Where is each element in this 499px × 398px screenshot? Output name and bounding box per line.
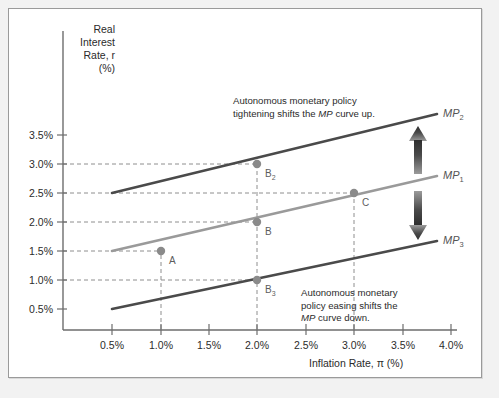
x-tick-label-0.5: 0.5% xyxy=(89,339,135,351)
y-tick-label-1.0: 1.0% xyxy=(9,274,53,286)
y-tick-label-2.5: 2.5% xyxy=(9,187,53,199)
figure-frame: Real Interest Rate, r (%) Inflation Rate… xyxy=(8,8,482,378)
point-label-c: C xyxy=(362,197,369,208)
arrow-down-shaft xyxy=(414,191,422,225)
point-label-b2-text: B xyxy=(265,168,272,179)
y-tick-label-3.0: 3.0% xyxy=(9,158,53,170)
marker-point-b2 xyxy=(253,160,261,168)
y-tick-label-2.0: 2.0% xyxy=(9,216,53,228)
point-label-a: A xyxy=(169,255,176,266)
x-tick-label-2.5: 2.5% xyxy=(283,339,329,351)
curve-label-mp2-subscript: 2 xyxy=(460,113,464,122)
annotation-tightening: Autonomous monetary policytightening shi… xyxy=(233,95,375,120)
curve-label-mp1-subscript: 1 xyxy=(460,175,464,184)
point-label-b3-text: B xyxy=(265,284,272,295)
x-tick-label-2.0: 2.0% xyxy=(234,339,280,351)
y-tick-label-1.5: 1.5% xyxy=(9,245,53,257)
x-tick-label-3.5: 3.5% xyxy=(380,339,426,351)
arrow-up-shaft xyxy=(414,140,422,174)
point-label-b: B xyxy=(265,226,272,237)
curve-label-mp1: MP1 xyxy=(443,169,464,184)
point-label-b3: B3 xyxy=(265,284,276,297)
curve-label-mp2-text: MP xyxy=(443,107,460,119)
mp1-curve xyxy=(112,176,437,251)
marker-point-c xyxy=(350,189,358,197)
x-tick-label-1.0: 1.0% xyxy=(138,339,184,351)
x-tick-label-4.0: 4.0% xyxy=(428,339,474,351)
curve-label-mp3: MP3 xyxy=(443,234,464,249)
mp2-curve xyxy=(112,114,437,193)
y-tick-label-0.5: 0.5% xyxy=(9,303,53,315)
annotation-easing: Autonomous monetarypolicy easing shifts … xyxy=(301,287,398,325)
marker-point-b3 xyxy=(253,276,261,284)
curve-label-mp1-text: MP xyxy=(443,169,460,181)
marker-point-b xyxy=(253,218,261,226)
point-label-b2-subscript: 2 xyxy=(272,174,276,181)
point-label-b2: B2 xyxy=(265,168,276,181)
x-tick-label-1.5: 1.5% xyxy=(186,339,232,351)
marker-point-a xyxy=(157,247,165,255)
x-tick-label-3.0: 3.0% xyxy=(331,339,377,351)
curve-label-mp3-subscript: 3 xyxy=(460,240,464,249)
y-axis-title: Real Interest Rate, r (%) xyxy=(23,23,115,75)
arrow-down-head xyxy=(409,225,427,240)
x-axis-title: Inflation Rate, π (%) xyxy=(309,357,403,370)
point-label-b3-subscript: 3 xyxy=(272,290,276,297)
arrow-up-head xyxy=(409,126,427,141)
curve-label-mp2: MP2 xyxy=(443,107,464,122)
y-tick-label-3.5: 3.5% xyxy=(9,129,53,141)
curve-label-mp3-text: MP xyxy=(443,234,460,246)
axis-lines xyxy=(63,31,457,330)
y-tick-marks xyxy=(57,135,67,309)
